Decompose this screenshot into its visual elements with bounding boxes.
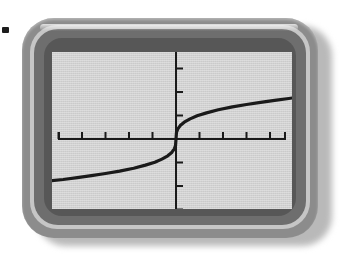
calculator-lcd-screen[interactable]	[52, 52, 292, 209]
screenshot-root	[0, 0, 353, 261]
bullet-marker-icon	[2, 27, 9, 33]
function-plot	[52, 52, 292, 209]
plot-axes	[58, 52, 286, 209]
